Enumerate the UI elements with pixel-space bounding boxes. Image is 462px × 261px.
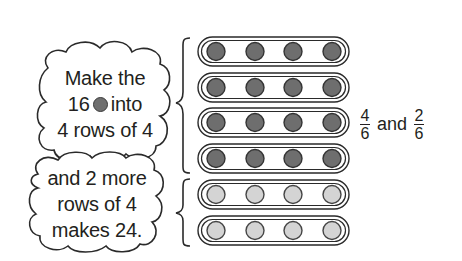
row-6 xyxy=(198,216,349,245)
dark-counter-icon xyxy=(93,97,108,112)
fraction-four-sixths: 4 6 xyxy=(360,108,370,141)
cloud-1-number: 16 xyxy=(68,93,90,115)
fraction-label: 4 6 and 2 6 xyxy=(360,108,424,141)
row-5 xyxy=(198,180,349,209)
counter-rows xyxy=(198,37,349,245)
brace-dark-rows xyxy=(176,38,190,173)
conjunction: and xyxy=(377,114,407,135)
row-1 xyxy=(198,37,349,66)
brace-light-rows xyxy=(176,179,190,246)
denominator: 6 xyxy=(415,126,424,141)
cloud-1-line-3: 4 rows of 4 xyxy=(40,120,170,140)
cloud-1-line-1: Make the xyxy=(40,68,170,88)
cloud-1-line-2: 16into xyxy=(40,94,170,114)
row-2 xyxy=(198,73,349,102)
numerator: 2 xyxy=(415,108,424,123)
denominator: 6 xyxy=(361,126,370,141)
fraction-two-sixths: 2 6 xyxy=(414,108,424,141)
cloud-2-line-1: and 2 more xyxy=(30,168,164,188)
row-3 xyxy=(198,108,349,137)
cloud-2-line-2: rows of 4 xyxy=(30,194,164,214)
cloud-1-word: into xyxy=(111,93,142,115)
numerator: 4 xyxy=(361,108,370,123)
row-4 xyxy=(198,144,349,173)
cloud-2-line-3: makes 24. xyxy=(30,220,164,240)
